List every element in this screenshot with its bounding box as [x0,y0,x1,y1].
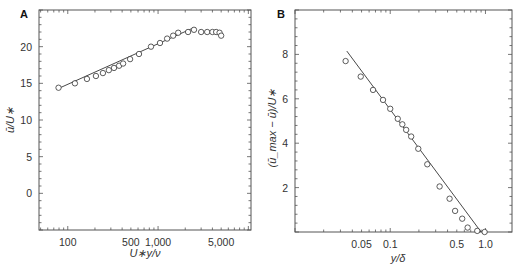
y-tick-label: 0 [26,187,32,199]
y-tick-label: 2 [282,182,288,194]
data-point-marker [148,44,153,49]
panel-a-ticks [39,10,251,230]
y-tick-label: 6 [282,93,288,105]
data-point-marker [218,33,223,38]
data-point-marker [380,97,385,102]
y-tick-label: 20 [20,41,32,53]
data-point-marker [157,40,162,45]
data-point-marker [460,216,465,221]
panel-a-x-axis-label: U∗y/ν [130,247,162,259]
data-point-marker [370,87,375,92]
panel-a-label: A [20,8,28,20]
panel-a-tick-labels: 1005001,0005,00005101520 [20,41,234,248]
data-point-marker [93,73,98,78]
data-point-marker [111,65,116,70]
data-point-marker [198,29,203,34]
y-tick-label: 4 [282,137,288,149]
data-point-marker [170,33,175,38]
data-point-marker [416,146,421,151]
panel-a-plot-area [56,27,224,90]
data-point-marker [408,134,413,139]
data-point-marker [400,122,405,127]
x-tick-label: 0.05 [351,238,372,250]
data-point-marker [164,36,169,41]
data-point-marker [437,184,442,189]
data-point-marker [72,81,77,86]
data-point-marker [136,51,141,56]
figure: A 1005001,0005,00005101520 U∗y/ν ū/U∗ B … [0,0,516,268]
data-point-marker [175,30,180,35]
panel-b-ticks [295,10,512,232]
panel-a-chart: A 1005001,0005,00005101520 U∗y/ν ū/U∗ [4,8,251,259]
panel-b-y-axis-label: (ū_max − ū)/U∗ [266,88,278,168]
data-point-marker [358,74,363,79]
panel-b-frame [295,10,512,232]
data-point-marker [204,29,209,34]
data-point-marker [106,67,111,72]
y-tick-label: 10 [20,114,32,126]
x-tick-label: 1.0 [478,238,493,250]
data-point-marker [403,127,408,132]
data-point-marker [56,85,61,90]
data-point-marker [388,106,393,111]
panel-b-x-axis-label: y/δ [390,252,407,264]
panel-a-frame [39,10,251,230]
x-tick-label: 0.1 [383,238,398,250]
data-point-marker [452,208,457,213]
data-point-marker [447,196,452,201]
data-point-marker [185,29,190,34]
panel-b-chart: B 0.050.10.51.02468 y/δ (ū_max − ū)/U∗ [266,8,512,264]
y-tick-label: 8 [282,48,288,60]
data-point-marker [482,229,487,234]
data-point-marker [100,70,105,75]
fit-line [347,51,481,232]
data-point-marker [475,228,480,233]
x-tick-label: 0.5 [449,238,464,250]
y-tick-label: 15 [20,77,32,89]
data-point-marker [127,56,132,61]
y-tick-label: 5 [26,151,32,163]
data-point-marker [343,58,348,63]
panel-b-label: B [277,8,285,20]
x-tick-label: 100 [59,236,77,248]
data-point-marker [120,61,125,66]
data-point-marker [465,225,470,230]
data-point-marker [191,27,196,32]
x-tick-label: 5,000 [208,236,234,248]
panel-a-y-axis-label: ū/U∗ [4,106,16,133]
panel-b-plot-area [343,51,487,235]
data-point-marker [395,116,400,121]
data-point-marker [84,76,89,81]
data-point-marker [425,162,430,167]
